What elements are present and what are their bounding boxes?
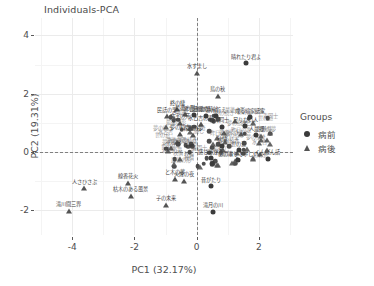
data-point-label: 世の窓 — [155, 133, 170, 138]
y-axis-tick-label: -2 — [11, 205, 29, 215]
gridline-major-horizontal — [35, 94, 293, 95]
data-point-label: 最後の形 — [171, 158, 191, 163]
x-axis-tick-mark — [72, 237, 73, 240]
legend: Groups 病前 病後 — [300, 112, 372, 155]
data-point-label: 水と吉の表 — [188, 115, 213, 120]
data-point-label: 秋情 — [217, 137, 227, 142]
data-point — [265, 156, 270, 161]
data-point — [125, 180, 131, 185]
data-point-label: 世の窓 — [231, 142, 246, 147]
y-axis-tick-label: 4 — [11, 30, 29, 40]
gridline-major-vertical — [134, 18, 135, 235]
data-point — [215, 93, 221, 98]
data-point — [254, 133, 259, 138]
data-point-label: 滝月の川 — [203, 203, 223, 208]
x-axis-tick-label: 2 — [256, 242, 262, 252]
gridline-major-horizontal — [35, 210, 293, 211]
x-axis-tick-mark — [197, 237, 198, 240]
page-title: Individuals-PCA — [44, 4, 119, 15]
y-axis-tick-mark — [31, 35, 34, 36]
data-point-label: 子の未来 — [156, 196, 176, 201]
data-point — [219, 124, 224, 129]
data-point-label: 人さひさぶ — [72, 179, 97, 184]
legend-item-circle[interactable]: 病前 — [300, 127, 372, 141]
data-point-label: くんぼん話 — [255, 150, 280, 155]
gridline-minor-vertical — [290, 18, 291, 235]
x-axis-tick-label: 0 — [194, 242, 200, 252]
gridline-minor-horizontal — [35, 65, 293, 66]
data-point-label: 青同士 — [263, 114, 278, 119]
x-axis-tick-mark — [259, 237, 260, 240]
triangle-marker-icon — [300, 141, 314, 155]
legend-item-label: 病前 — [318, 128, 336, 140]
data-point-label: 水すまし — [187, 64, 207, 69]
data-point-label: 水と吉 — [252, 140, 267, 145]
data-point-label: 静用首え — [206, 108, 226, 113]
legend-title: Groups — [300, 112, 372, 122]
data-point-label: 夢の続き — [162, 140, 182, 145]
data-point-label: 人最郷 — [249, 126, 264, 131]
data-point — [81, 186, 87, 191]
data-point — [210, 162, 215, 167]
x-axis-title: PC1 (32.17%) — [131, 264, 196, 275]
data-point — [181, 178, 187, 183]
data-point — [210, 209, 215, 214]
circle-marker-icon — [300, 127, 314, 141]
gridline-minor-vertical — [228, 18, 229, 235]
data-point — [208, 156, 213, 161]
data-point — [172, 176, 178, 181]
data-point — [214, 162, 220, 167]
y-axis-title: PC2 (19.31%) — [29, 93, 40, 158]
data-point-label: 文字の死 — [170, 114, 190, 119]
gridline-minor-vertical — [41, 18, 42, 235]
gridline-major-horizontal — [35, 35, 293, 36]
data-point — [229, 161, 235, 166]
y-axis-tick-label: 2 — [11, 89, 29, 99]
y-axis-tick-label: 0 — [11, 147, 29, 157]
data-point — [194, 70, 200, 75]
data-point-label: 昔がたり — [201, 178, 221, 183]
data-point — [243, 124, 248, 129]
data-point-label: 秋情 — [173, 151, 183, 156]
data-point — [177, 131, 183, 136]
data-point-label: 線香花火 — [118, 174, 138, 179]
data-point — [197, 164, 203, 169]
data-point-label: 枯木のある風景 — [113, 187, 148, 192]
data-point-label: 青同士 — [214, 118, 229, 123]
gridline-minor-vertical — [103, 18, 104, 235]
data-point — [207, 139, 212, 144]
pca-plot-root: Individuals-PCA 世の窓夢の続き最後の形水と吉青同士人最郷秋情世の… — [0, 0, 374, 286]
data-point — [128, 193, 134, 198]
data-point — [163, 202, 169, 207]
x-axis-tick-label: -2 — [130, 242, 139, 252]
data-point — [220, 143, 225, 148]
data-point-label: 足りない人 — [233, 118, 258, 123]
data-point-label: 成る暗家話家 — [235, 108, 265, 113]
legend-item-label: 病後 — [318, 142, 336, 154]
data-point-label: 秋情 — [184, 152, 194, 157]
data-point — [66, 208, 72, 213]
data-point-label: 晴れたり君よ — [231, 54, 261, 59]
data-point — [190, 132, 196, 137]
x-axis-tick-label: -4 — [68, 242, 77, 252]
data-point-label: 滝川間三界 — [56, 202, 81, 207]
data-point — [236, 158, 241, 163]
data-point — [243, 61, 248, 66]
x-axis-tick-mark — [134, 237, 135, 240]
data-point-label: 火煙の夜 — [174, 172, 194, 177]
data-point — [208, 184, 213, 189]
y-axis-tick-mark — [31, 210, 34, 211]
data-point-label: 鳥の秋 — [210, 87, 225, 92]
data-point-label: 春野の夢 — [183, 126, 203, 131]
plot-panel: 世の窓夢の続き最後の形水と吉青同士人最郷秋情世の窓春野の夢昨日の歌秋情人最郷水と… — [35, 18, 293, 235]
legend-item-triangle[interactable]: 病後 — [300, 141, 372, 155]
